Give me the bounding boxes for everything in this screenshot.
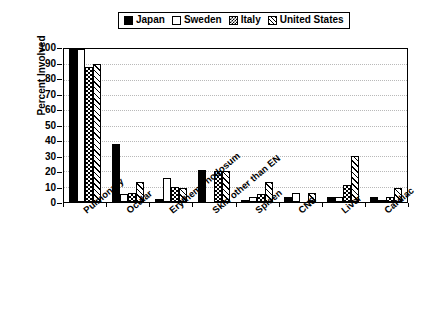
y-tick-mark	[57, 79, 62, 80]
legend-item-label: Italy	[241, 15, 261, 25]
y-tick-mark	[57, 157, 62, 158]
bar	[335, 197, 343, 202]
x-axis-labels: PulmonaryOcularErythema nodosumSkin othe…	[63, 205, 408, 295]
legend-swatch-icon	[172, 16, 181, 25]
x-label-cell: Ocular	[106, 205, 149, 295]
y-tick-mark	[57, 172, 62, 173]
chart-figure: JapanSwedenItalyUnited States 1009080706…	[0, 0, 426, 315]
chart-legend: JapanSwedenItalyUnited States	[118, 12, 350, 29]
y-tick-mark	[57, 64, 62, 65]
bar	[93, 64, 101, 202]
bar	[163, 178, 171, 202]
bar	[120, 194, 128, 202]
y-tick-label: 30	[45, 152, 56, 162]
bar-group	[321, 49, 364, 202]
y-tick-mark	[57, 141, 62, 142]
y-tick-label: 40	[45, 136, 56, 146]
y-tick-mark	[57, 203, 62, 204]
y-tick-mark	[57, 110, 62, 111]
y-tick-label: 70	[45, 90, 56, 100]
x-label-cell: Spleen	[236, 205, 279, 295]
legend-swatch-icon	[124, 16, 133, 25]
bar	[370, 197, 378, 202]
bar	[249, 197, 257, 202]
legend-swatch-icon	[268, 16, 277, 25]
y-tick-mark	[57, 95, 62, 96]
y-axis-title: Percent Involved	[36, 21, 47, 131]
bar	[292, 193, 300, 202]
legend-item-italy: Italy	[229, 15, 261, 25]
bar	[327, 197, 335, 202]
bar-group	[278, 49, 321, 202]
bar	[284, 197, 292, 202]
y-tick-mark	[57, 126, 62, 127]
bar	[378, 200, 386, 202]
y-tick-mark	[57, 48, 62, 49]
y-tick-label: 0	[50, 198, 56, 208]
x-label-cell: CNS	[279, 205, 322, 295]
y-tick-label: 10	[45, 183, 56, 193]
x-label-cell: Pulmonary	[63, 205, 106, 295]
x-label-cell: Cardiac	[365, 205, 408, 295]
legend-item-label: Japan	[136, 15, 165, 25]
y-tick-label: 50	[45, 121, 56, 131]
legend-swatch-icon	[229, 16, 238, 25]
bar	[77, 49, 85, 202]
bar	[241, 200, 249, 202]
bar	[155, 199, 163, 202]
legend-item-united-states: United States	[268, 15, 344, 25]
y-tick-label: 90	[45, 59, 56, 69]
y-tick-label: 80	[45, 74, 56, 84]
y-tick-label: 20	[45, 167, 56, 177]
x-label-cell: Skin other than EN	[192, 205, 235, 295]
legend-item-label: United States	[280, 15, 344, 25]
x-label-cell: Erythema nodosum	[149, 205, 192, 295]
y-tick-mark	[57, 188, 62, 189]
bar	[85, 67, 93, 202]
bar	[69, 49, 77, 202]
bar-group	[150, 49, 193, 202]
bar-group	[64, 49, 107, 202]
legend-item-sweden: Sweden	[172, 15, 222, 25]
legend-item-label: Sweden	[184, 15, 222, 25]
x-tick-mark	[408, 203, 409, 207]
x-label-cell: Liver	[322, 205, 365, 295]
bar-group	[364, 49, 407, 202]
legend-item-japan: Japan	[124, 15, 165, 25]
y-tick-label: 60	[45, 105, 56, 115]
